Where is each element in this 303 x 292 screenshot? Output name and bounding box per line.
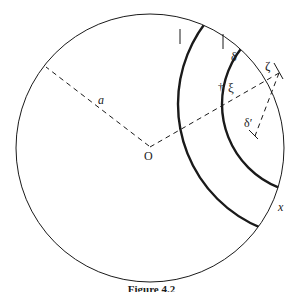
main-circle [16,14,284,282]
xi-label: ξ [228,81,234,94]
radius-label: a [98,94,104,106]
figure-caption: Figure 4.2 [0,283,303,292]
tick-zeta [274,63,283,79]
delta-prime-label: δ′ [244,117,252,129]
axis-label: x [278,201,283,213]
figure-drawing [0,0,303,292]
figure-container: a O x δ ζ † ξ δ′ Figure 4.2 [0,0,303,292]
zeta-label: ζ [265,59,270,72]
delta-label: δ [231,51,237,63]
center-label: O [144,150,153,162]
dagger-label: † [218,81,224,92]
